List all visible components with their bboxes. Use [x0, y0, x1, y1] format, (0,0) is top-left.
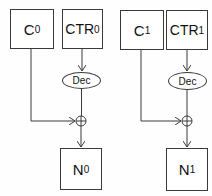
block-label: CTR	[170, 22, 199, 38]
block-label: N	[179, 161, 190, 178]
block-subscript: 1	[199, 25, 205, 36]
column-1-connectors	[141, 50, 192, 147]
column-0-connectors	[31, 48, 86, 147]
block-subscript: 0	[84, 164, 90, 175]
ctr-mode-decryption-diagram: C0 CTR0 Dec N0 C1 CTR1 Dec N1	[0, 0, 212, 196]
decrypt-node-1: Dec	[168, 72, 207, 90]
counter-block-ctr1: CTR1	[166, 10, 208, 50]
output-block-n0: N0	[60, 148, 102, 190]
block-label: C	[24, 21, 35, 38]
counter-block-ctr0: CTR0	[62, 9, 103, 49]
block-subscript: 0	[35, 24, 41, 35]
block-subscript: 1	[145, 25, 151, 36]
output-block-n1: N1	[166, 148, 208, 191]
decrypt-node-0: Dec	[62, 72, 101, 89]
block-subscript: 0	[94, 24, 100, 35]
block-subscript: 1	[190, 164, 196, 175]
decrypt-label: Dec	[73, 75, 91, 86]
block-label: C	[134, 22, 145, 39]
block-label: N	[73, 161, 84, 178]
block-label: CTR	[65, 21, 94, 37]
ciphertext-block-c1: C1	[120, 10, 164, 50]
ciphertext-block-c0: C0	[10, 9, 54, 49]
decrypt-label: Dec	[179, 76, 197, 87]
